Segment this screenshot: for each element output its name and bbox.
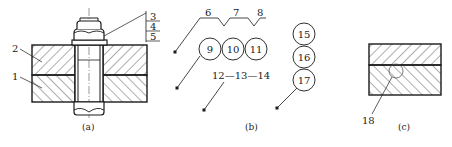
bolt-head-bottom [74, 102, 104, 115]
nut-top [72, 18, 107, 45]
panel-b: 6 7 8 9 10 11 12—13—14 15 [174, 7, 316, 132]
svg-text:1: 1 [12, 71, 18, 82]
svg-text:15: 15 [298, 29, 311, 40]
svg-text:2: 2 [12, 43, 18, 54]
callout-circles-9-10-11: 9 10 11 [176, 38, 268, 90]
caption-a: (a) [82, 122, 94, 132]
svg-text:8: 8 [257, 7, 263, 18]
panel-c: 18 (c) [362, 44, 441, 132]
caption-b: (b) [245, 122, 258, 132]
svg-text:7: 7 [233, 7, 239, 18]
callout-dash-12-13-14: 12—13—14 [203, 70, 271, 112]
svg-text:5: 5 [150, 31, 156, 42]
callout-3-4-5: 3 4 5 [104, 11, 160, 42]
plate-upper-c [369, 44, 441, 65]
callout-circles-15-16-17: 15 16 17 [276, 23, 316, 110]
panel-a: 2 1 3 4 5 (a) [12, 8, 160, 132]
svg-text:16: 16 [298, 52, 311, 63]
svg-text:18: 18 [362, 115, 375, 126]
svg-text:17: 17 [298, 75, 311, 86]
caption-c: (c) [398, 122, 410, 132]
svg-text:6: 6 [205, 7, 211, 18]
svg-text:10: 10 [227, 44, 240, 55]
plate-lower-c [369, 65, 441, 95]
svg-text:9: 9 [207, 44, 213, 55]
svg-text:12—13—14: 12—13—14 [212, 70, 270, 81]
technical-figure: 2 1 3 4 5 (a) 6 7 8 [0, 0, 452, 147]
svg-text:11: 11 [250, 44, 263, 55]
